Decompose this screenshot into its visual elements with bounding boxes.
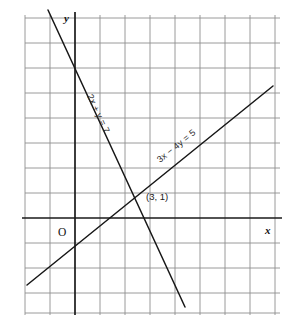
intersection-point-label: (3, 1) <box>146 191 168 202</box>
graph-figure: y x O (3, 1) 2x + y = 7 3x − 4y = 5 <box>0 0 285 333</box>
figure-background <box>0 0 285 333</box>
y-axis-label: y <box>62 12 69 24</box>
x-axis-label: x <box>264 224 271 236</box>
coordinate-plane-svg: y x O (3, 1) 2x + y = 7 3x − 4y = 5 <box>0 0 285 333</box>
origin-label: O <box>58 226 66 238</box>
